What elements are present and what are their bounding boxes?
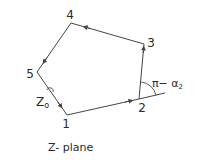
edge-4-5 xyxy=(37,23,71,72)
vertex-label-2: 2 xyxy=(138,101,146,115)
z-plane-diagram: 1 2 3 4 5 Zo π− α2 Z- plane xyxy=(0,0,211,168)
arrow-5-1 xyxy=(58,102,61,107)
vertex-label-4: 4 xyxy=(66,8,74,22)
plane-title: Z- plane xyxy=(48,141,94,154)
arrow-1-2 xyxy=(125,101,131,102)
vertex-label-3: 3 xyxy=(147,36,155,50)
vertex-label-5: 5 xyxy=(26,67,34,81)
point-label-main: Z xyxy=(36,95,44,109)
edge-3-4 xyxy=(71,23,144,44)
arrow-4-5 xyxy=(44,58,47,63)
point-label-z0: Zo xyxy=(36,95,49,110)
extension-line-2 xyxy=(139,93,165,99)
vertex-label-1: 1 xyxy=(62,117,70,131)
point-label-sub: o xyxy=(44,101,49,110)
angle-label: π− α2 xyxy=(152,77,183,91)
angle-label-main: π− α xyxy=(152,77,179,90)
angle-label-sub: 2 xyxy=(179,83,183,91)
